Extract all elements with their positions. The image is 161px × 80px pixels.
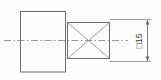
arrowhead-up-icon xyxy=(146,20,149,25)
drawing-svg: □15 xyxy=(0,0,161,80)
engineering-drawing-canvas: □15 xyxy=(0,0,161,80)
arrowhead-down-icon xyxy=(146,57,149,62)
shaft-body-outline xyxy=(21,12,66,73)
dimension-annotation-group: □15 xyxy=(134,33,144,48)
dimension-text: □15 xyxy=(134,33,144,48)
